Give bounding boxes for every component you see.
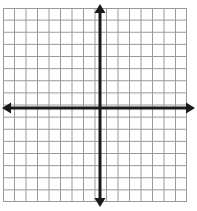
coordinate-plane-figure (0, 0, 197, 211)
coordinate-plane-svg (0, 0, 197, 211)
